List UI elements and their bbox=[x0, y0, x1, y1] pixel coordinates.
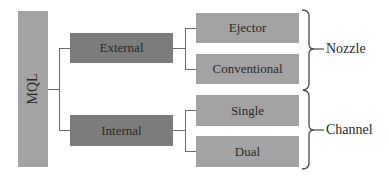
ejector-node: Ejector bbox=[196, 13, 299, 43]
single-node: Single bbox=[196, 95, 299, 126]
internal-bracket bbox=[185, 110, 186, 152]
root-bracket bbox=[59, 48, 60, 131]
internal-to-single bbox=[185, 110, 196, 111]
conventional-label: Conventional bbox=[212, 61, 282, 77]
conventional-node: Conventional bbox=[196, 54, 299, 84]
ejector-label: Ejector bbox=[229, 20, 267, 36]
root-to-internal bbox=[59, 130, 70, 131]
dual-label: Dual bbox=[235, 144, 260, 160]
external-node: External bbox=[70, 33, 173, 63]
dual-node: Dual bbox=[196, 136, 299, 167]
internal-node: Internal bbox=[70, 115, 173, 146]
nozzle-group-label: Nozzle bbox=[326, 41, 366, 57]
root-connector bbox=[48, 89, 59, 90]
mql-node: MQL bbox=[18, 11, 48, 167]
internal-to-dual bbox=[185, 151, 196, 152]
brace-icon bbox=[300, 8, 330, 172]
external-bracket bbox=[185, 28, 186, 70]
external-label: External bbox=[99, 40, 143, 56]
channel-group-label: Channel bbox=[326, 122, 373, 138]
internal-label: Internal bbox=[101, 123, 141, 139]
external-to-conventional bbox=[185, 69, 196, 70]
single-label: Single bbox=[231, 103, 264, 119]
external-to-ejector bbox=[185, 28, 196, 29]
mql-label: MQL bbox=[25, 73, 41, 104]
root-to-external bbox=[59, 48, 70, 49]
internal-connector bbox=[173, 130, 185, 131]
external-connector bbox=[173, 48, 185, 49]
